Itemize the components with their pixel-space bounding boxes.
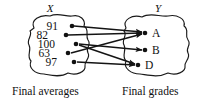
diagram-canvas: X Y 91821006397 ABD Final averages Final… [0, 0, 205, 101]
domain-element-label-91: 91 [47, 20, 59, 32]
domain-elements-group: 91821006397 [37, 20, 79, 68]
domain-element-dot-97 [72, 60, 77, 65]
domain-element-dot-91 [70, 24, 75, 29]
mapping-arrow-82-to-A [68, 33, 142, 35]
codomain-element-dot-D [136, 63, 141, 68]
codomain-element-label-B: B [152, 44, 160, 56]
codomain-element-dot-B [143, 48, 148, 53]
mapping-arrow-91-to-A [74, 26, 142, 32]
codomain-element-label-A: A [152, 27, 161, 39]
domain-caption: Final averages [12, 85, 79, 98]
codomain-caption: Final grades [122, 85, 179, 98]
codomain-element-dot-A [143, 31, 148, 36]
codomain-set-label: Y [155, 2, 163, 14]
mapping-arrows-group [68, 26, 142, 65]
function-mapping-figure: X Y 91821006397 ABD Final averages Final… [0, 0, 205, 101]
domain-element-dot-63 [66, 51, 71, 56]
domain-element-dot-82 [64, 33, 69, 38]
domain-set-label: X [46, 2, 55, 14]
domain-element-dot-100 [74, 42, 79, 47]
codomain-element-label-D: D [145, 59, 153, 71]
domain-element-label-97: 97 [46, 56, 58, 68]
